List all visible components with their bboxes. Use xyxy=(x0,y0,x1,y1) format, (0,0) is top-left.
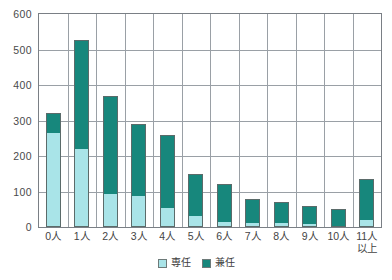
bar[interactable] xyxy=(331,209,346,227)
x-axis-tick-label: 10人 xyxy=(324,231,353,243)
x-axis-tick-label: 9人 xyxy=(296,231,325,243)
bar-segment-kennin[interactable] xyxy=(161,136,174,208)
bar-group xyxy=(239,199,268,227)
y-axis-tick-label: 100 xyxy=(0,186,32,198)
bar-segment-kennin[interactable] xyxy=(132,125,145,196)
bar-group xyxy=(96,96,125,227)
bar-segment-kennin[interactable] xyxy=(303,207,316,224)
bar-segment-kennin[interactable] xyxy=(246,200,259,223)
bar-segment-senin[interactable] xyxy=(360,220,373,226)
x-axis-labels: 0人1人2人3人4人5人6人7人8人9人10人11人以上 xyxy=(39,231,381,275)
bar-group xyxy=(182,174,211,227)
bar-group xyxy=(210,184,239,227)
bar-segment-senin[interactable] xyxy=(303,224,316,226)
x-axis-tick-label-line: 2人 xyxy=(96,231,125,243)
x-axis-tick-label-line: 5人 xyxy=(182,231,211,243)
bar-segment-senin[interactable] xyxy=(189,216,202,226)
bar-segment-senin[interactable] xyxy=(161,208,174,226)
bar-segment-senin[interactable] xyxy=(218,222,231,226)
x-axis-tick-label-line: 8人 xyxy=(267,231,296,243)
bar-segment-kennin[interactable] xyxy=(189,175,202,217)
x-axis-tick-label-line: 7人 xyxy=(239,231,268,243)
bar[interactable] xyxy=(245,199,260,227)
x-axis-tick-label-line: 11人 xyxy=(353,231,382,243)
y-axis-tick-label: 600 xyxy=(0,8,32,20)
x-axis-tick-label: 6人 xyxy=(210,231,239,243)
bar[interactable] xyxy=(74,40,89,227)
legend-swatch-icon xyxy=(158,259,167,268)
x-axis-tick-label-line: 3人 xyxy=(125,231,154,243)
legend-item-senin[interactable]: 専任 xyxy=(158,258,191,268)
bar-segment-senin[interactable] xyxy=(246,223,259,226)
x-axis-tick-label-line: 0人 xyxy=(39,231,68,243)
bars-layer xyxy=(39,14,381,227)
x-axis-tick-label: 0人 xyxy=(39,231,68,243)
bar-group xyxy=(296,206,325,227)
bar[interactable] xyxy=(188,174,203,227)
x-axis-tick-label: 4人 xyxy=(153,231,182,243)
bar-segment-kennin[interactable] xyxy=(218,185,231,222)
bar-group xyxy=(267,202,296,227)
bar[interactable] xyxy=(274,202,289,227)
x-axis-tick-label: 2人 xyxy=(96,231,125,243)
bar-segment-senin[interactable] xyxy=(104,194,117,226)
legend-label: 兼任 xyxy=(215,258,235,268)
bar[interactable] xyxy=(103,96,118,227)
bar-segment-kennin[interactable] xyxy=(275,203,288,223)
x-axis-tick-label: 7人 xyxy=(239,231,268,243)
bar-segment-senin[interactable] xyxy=(47,133,60,226)
bar-group xyxy=(68,40,97,227)
y-axis-tick-label: 200 xyxy=(0,150,32,162)
y-axis-tick-label: 400 xyxy=(0,79,32,91)
x-axis-tick-label: 1人 xyxy=(68,231,97,243)
x-axis-tick-label-line: 10人 xyxy=(324,231,353,243)
bar-segment-kennin[interactable] xyxy=(360,180,373,220)
x-axis-tick-label-line: 以上 xyxy=(353,243,382,255)
bar-group xyxy=(125,124,154,227)
chart-legend: 専任兼任 xyxy=(0,258,392,268)
x-axis-tick-label: 5人 xyxy=(182,231,211,243)
bar-segment-senin[interactable] xyxy=(275,223,288,226)
legend-label: 専任 xyxy=(171,258,191,268)
x-axis-tick-label-line: 6人 xyxy=(210,231,239,243)
bar-segment-kennin[interactable] xyxy=(47,114,60,133)
bar-group xyxy=(153,135,182,227)
bar-group xyxy=(39,113,68,227)
bar-segment-senin[interactable] xyxy=(132,196,145,226)
x-axis-tick-label: 3人 xyxy=(125,231,154,243)
bar-segment-kennin[interactable] xyxy=(75,41,88,150)
x-axis-tick-label-line: 1人 xyxy=(68,231,97,243)
y-axis-tick-label: 0 xyxy=(0,221,32,233)
bar[interactable] xyxy=(217,184,232,227)
x-axis-tick-label: 8人 xyxy=(267,231,296,243)
bar-segment-kennin[interactable] xyxy=(332,210,345,226)
bar-segment-kennin[interactable] xyxy=(104,97,117,194)
legend-item-kennin[interactable]: 兼任 xyxy=(202,258,235,268)
bar-segment-senin[interactable] xyxy=(75,149,88,226)
bar[interactable] xyxy=(46,113,61,227)
bar[interactable] xyxy=(359,179,374,227)
bar[interactable] xyxy=(302,206,317,227)
y-axis-tick-label: 300 xyxy=(0,115,32,127)
x-axis-tick-label-line: 4人 xyxy=(153,231,182,243)
bar[interactable] xyxy=(160,135,175,227)
stacked-bar-chart: 0100200300400500600 0人1人2人3人4人5人6人7人8人9人… xyxy=(0,0,392,280)
bar-group xyxy=(324,209,353,227)
bar[interactable] xyxy=(131,124,146,227)
x-axis-tick-label-line: 9人 xyxy=(296,231,325,243)
y-axis-tick-label: 500 xyxy=(0,44,32,56)
x-axis-tick-label: 11人以上 xyxy=(353,231,382,254)
bar-group xyxy=(353,179,382,227)
legend-swatch-icon xyxy=(202,259,211,268)
